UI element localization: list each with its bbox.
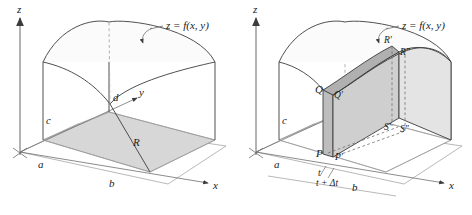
axis-label-z-left: z	[16, 3, 22, 15]
panel-cross-sectional-slab: z y x c a d b	[236, 0, 472, 215]
label-R-double-prime: R″	[399, 47, 411, 57]
z-axis-left	[13, 18, 27, 158]
label-R-prime: R′	[383, 35, 393, 45]
label-S-double-prime: S″	[400, 124, 410, 134]
axis-label-y-left: y	[138, 86, 144, 98]
label-Q-prime: Q′	[334, 90, 344, 100]
axis-label-z-right: z	[252, 3, 258, 15]
surface-equation-label-right: z = f(x, y)	[401, 19, 445, 32]
label-S-prime: S′	[384, 122, 392, 132]
label-a-left: a	[38, 158, 44, 170]
region-label-R: R	[132, 136, 140, 148]
label-c-left: c	[46, 114, 51, 126]
slab-tick-guides	[320, 166, 334, 178]
label-t: t	[318, 168, 321, 178]
z-axis-right	[249, 18, 263, 158]
label-b-left: b	[109, 177, 115, 189]
label-a-right: a	[274, 158, 280, 170]
figure-root: z y x c a b d	[0, 0, 472, 215]
slab-front-face	[323, 90, 333, 157]
right-diagram-svg: z y x c a d b	[236, 0, 472, 215]
label-b-right: b	[352, 181, 358, 193]
left-diagram-svg: z y x c a b d	[0, 0, 236, 215]
label-P-prime: P′	[334, 152, 344, 162]
surface-equation-label-left: z = f(x, y)	[165, 19, 209, 32]
region-R-fill	[43, 112, 215, 172]
label-c-right: c	[282, 114, 287, 126]
panel-volume-under-surface: z y x c a b d	[0, 0, 236, 215]
axis-label-x-left: x	[212, 179, 218, 191]
label-P: P	[315, 147, 323, 159]
label-Q: Q	[315, 83, 323, 95]
axis-label-x-right: x	[448, 179, 454, 191]
surface-left	[43, 21, 215, 104]
label-t-plus-delta-t: t + Δt	[316, 178, 338, 188]
